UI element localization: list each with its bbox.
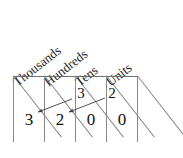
grid-vline-right [137,76,138,142]
carry-digit-units: 2 [102,85,122,102]
result-digit-hundreds: 2 [49,110,71,130]
result-digit-units: 0 [111,110,133,130]
carry-digit-tens: 3 [71,85,91,102]
place-value-table-figure: Thousands Hundreds Tens Units 3 2 3 2 0 … [0,0,183,158]
result-digit-thousands: 3 [18,110,40,130]
result-digit-tens: 0 [80,110,102,130]
table-grid: 3 2 3 2 0 0 [0,0,183,158]
grid-vline-1 [44,76,45,142]
grid-vline-left [13,76,14,142]
